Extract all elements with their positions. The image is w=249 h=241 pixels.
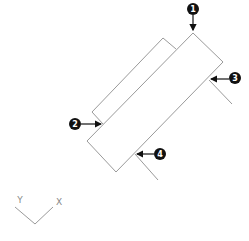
axis-x-label: X — [56, 197, 62, 207]
leader-line-4 — [135, 154, 158, 180]
callout-3: 3 — [211, 72, 241, 84]
callout-2: 2 — [69, 118, 101, 130]
callout-3-label: 3 — [232, 74, 238, 83]
callout-4-label: 4 — [157, 150, 163, 159]
leader-line-3 — [209, 80, 232, 104]
axis-y-label: Y — [16, 195, 23, 205]
callout-1-label: 1 — [190, 5, 196, 14]
diagram-canvas: 1 2 3 4 Y X — [0, 0, 249, 241]
callout-1: 1 — [187, 3, 199, 30]
axis-icon: Y X — [15, 195, 62, 224]
callout-4: 4 — [137, 148, 166, 160]
secondary-block — [92, 38, 176, 124]
callout-2-label: 2 — [72, 120, 78, 129]
